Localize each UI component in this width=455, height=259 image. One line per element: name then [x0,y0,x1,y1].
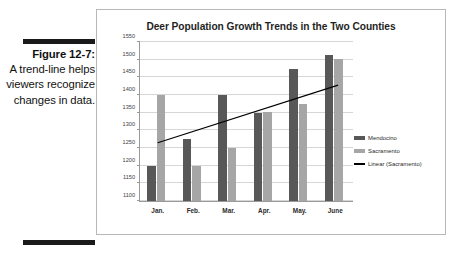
y-axis-tick-label: 1150 [123,174,135,180]
y-axis-tick-label: 1400 [123,86,135,92]
x-axis-tick-label: Apr. [247,207,282,214]
chart-container: Deer Population Growth Trends in the Two… [96,9,446,235]
legend-item: Sacramento [354,145,436,156]
plot-wrapper: 1100115012001250130013501400145015001550… [118,42,353,202]
figure-number-label: Figure 12-7: [4,47,95,62]
y-axis-tick-label: 1350 [123,104,135,110]
chart-legend: MendocinoSacramentoLinear (Sacramento) [354,132,436,171]
chart-title: Deer Population Growth Trends in the Two… [97,21,445,32]
legend-item: Mendocino [354,132,436,143]
x-axis-tick-label: Jan. [140,207,175,214]
legend-label: Linear (Sacramento) [368,161,422,167]
y-axis-tick-label: 1550 [123,33,135,39]
figure-caption-text: Figure 12-7: A trend-line helps viewers … [4,47,95,108]
trendline-svg [140,42,353,201]
y-axis-tick-label: 1200 [123,157,135,163]
legend-swatch-icon [354,163,365,165]
legend-item: Linear (Sacramento) [354,158,436,169]
y-axis-tick-label: 1250 [123,139,135,145]
y-axis-tick-label: 1450 [123,68,135,74]
legend-label: Sacramento [368,148,400,154]
x-axis-tick-label: June [318,207,353,214]
y-axis-tick-label: 1100 [123,192,135,198]
x-axis-tick-label: Mar. [211,207,246,214]
figure-caption-block: Figure 12-7: A trend-line helps viewers … [0,0,107,259]
trendline [158,85,338,143]
legend-swatch-icon [354,136,365,140]
caption-rule-bottom [23,240,95,245]
legend-swatch-icon [354,149,365,153]
legend-label: Mendocino [368,135,397,141]
x-axis-tick-label: May. [282,207,317,214]
caption-rule-top [23,39,95,44]
figure-caption-body: A trend-line helps viewers recognize cha… [4,62,95,108]
plot-area: 1100115012001250130013501400145015001550… [139,42,353,202]
x-axis-tick-label: Feb. [175,207,210,214]
y-axis-tick-label: 1300 [123,121,135,127]
y-axis-tick-label: 1500 [123,51,135,57]
